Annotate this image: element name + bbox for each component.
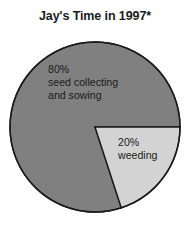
pie-chart-figure: Jay's Time in 1997* 80% seed collecting … [0, 0, 190, 226]
pie-label-seed-line2: and sowing [48, 89, 118, 102]
pie-label-seed-percent: 80% [48, 63, 118, 76]
pie-label-seed-line1: seed collecting [48, 76, 118, 89]
pie-label-weeding: 20% weeding [118, 136, 157, 162]
pie-chart-graphic [0, 0, 190, 226]
pie-label-weeding-percent: 20% [118, 136, 157, 149]
pie-label-weeding-line1: weeding [118, 149, 157, 162]
pie-label-seed-collecting-and-sowing: 80% seed collecting and sowing [48, 63, 118, 103]
